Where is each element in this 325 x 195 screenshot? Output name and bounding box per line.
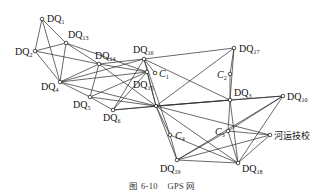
node-c2 [228,72,232,76]
node-dq16 [142,57,146,61]
label-dq1: DQ1 [47,13,64,25]
label-c4: C4 [175,130,185,142]
network-labels: DQ1DQ13DQ2DQ14DQ16C1DQ15DQ4DQ5DQ6C4DQ17C… [15,13,310,175]
node-c4 [168,133,172,137]
edge-DQ19-DQ18 [177,160,238,163]
edge-DQ3-C3 [228,100,230,131]
edge-DQ14-DQ15 [99,64,147,72]
label-dq18: DQ18 [242,163,262,175]
label-dq2: DQ2 [15,46,32,58]
node-dq2 [33,49,37,53]
edge-DQ14-DQ5 [90,64,99,97]
node-dq10 [281,94,285,98]
label-dq15: DQ15 [133,79,153,91]
label-dq6: DQ6 [103,112,120,124]
node-dq13 [64,41,68,45]
label-dq4: DQ4 [41,81,58,93]
edge-DQ10-DQ19 [177,96,283,160]
label-dq16: DQ16 [133,44,153,56]
figure-caption: 图 6-10 GPS 网 [0,179,325,191]
label-dq14: DQ14 [95,50,115,62]
node-j1 [154,104,157,107]
node-c3 [226,129,230,133]
node-dq18 [236,161,240,165]
node-dq19 [175,158,179,162]
label-dq3: DQ3 [234,87,251,99]
edge-DQ10-DQ18 [238,96,283,163]
edge-DQ1-DQ2 [35,19,42,51]
label-dq19: DQ19 [160,163,180,175]
label-hyjx: 河运技校 [274,130,310,141]
label-dq13: DQ13 [68,29,88,41]
gps-network-diagram: DQ1DQ13DQ2DQ14DQ16C1DQ15DQ4DQ5DQ6C4DQ17C… [0,0,325,178]
node-dq15 [145,70,149,74]
node-dq1 [40,17,44,21]
edge-DQ5-DQ6 [90,97,113,110]
caption-number: 图 6-10 [129,181,158,191]
node-c1 [153,71,157,75]
edge-DQ16-DQ17 [144,48,234,59]
node-dq14 [97,62,101,66]
node-dq4 [58,80,62,84]
edge-J1-C4 [156,106,170,135]
node-hyjx [268,133,272,137]
edge-J1-HYJX [156,106,270,135]
edge-J1-DQ19 [156,106,177,160]
label-dq17: DQ17 [239,43,259,55]
label-c2: C2 [217,69,227,81]
edge-C3-DQ18 [228,131,238,163]
edge-DQ4-DQ5 [60,82,90,97]
node-dq17 [232,46,236,50]
node-dq5 [88,95,92,99]
label-dq5: DQ5 [73,99,90,111]
caption-title: GPS 网 [168,181,196,191]
label-dq10: DQ10 [287,91,307,103]
label-c3: C3 [215,126,225,138]
node-dq3 [228,98,232,102]
edge-DQ13-DQ4 [60,43,66,82]
